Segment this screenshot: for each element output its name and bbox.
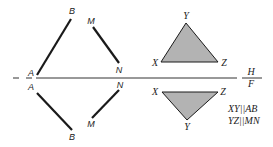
label-m-top: M (87, 16, 95, 26)
label-y-top: Y (183, 10, 190, 21)
label-x-top: X (151, 57, 159, 68)
label-y-bottom: Y (184, 121, 191, 132)
label-a-bottom: A (27, 82, 34, 92)
line-ab-top (37, 19, 71, 75)
label-n-top: N (116, 65, 123, 75)
label-n-bottom: N (117, 80, 124, 90)
label-m-bottom: M (87, 119, 95, 129)
label-z-top: Z (221, 57, 227, 68)
label-z-bottom: Z (220, 86, 226, 97)
parallel-notes: XY||AB YZ||MN (227, 103, 261, 126)
orthographic-projection-diagram: H F A B M N A B N M Y X Z X Z Y XY||AB Y… (0, 0, 273, 147)
label-b-bottom: B (69, 132, 75, 142)
line-ab-bottom (37, 93, 72, 130)
label-a-top: A (27, 68, 34, 78)
label-b-top: B (69, 6, 75, 16)
fold-label-h: H (246, 66, 255, 77)
triangle-bottom: X Z Y (151, 86, 226, 132)
top-view-lines: A B M N (27, 6, 123, 78)
triangle-xyz-bottom (162, 92, 218, 120)
note-yz-parallel-mn: YZ||MN (228, 115, 261, 126)
triangle-xyz-top (161, 23, 218, 62)
line-mn-bottom (92, 90, 119, 118)
line-mn-top (93, 27, 119, 63)
note-xy-parallel-ab: XY||AB (227, 103, 257, 114)
label-x-bottom: X (151, 86, 159, 97)
fold-label-f: F (247, 78, 255, 89)
bottom-view-lines: A B N M (27, 80, 124, 142)
triangle-top: Y X Z (151, 10, 227, 68)
